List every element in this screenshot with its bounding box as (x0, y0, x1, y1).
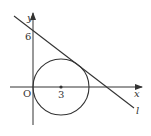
origin-label: O (23, 88, 31, 99)
y-tick-6: 6 (25, 31, 31, 42)
x-axis-label: x (134, 88, 140, 99)
line-label: l (136, 105, 139, 116)
y-axis-label: y (26, 12, 33, 23)
tangent-line-l (14, 16, 134, 108)
x-tick-3: 3 (58, 89, 64, 100)
coordinate-diagram: y 6 O 3 x l (0, 0, 151, 136)
